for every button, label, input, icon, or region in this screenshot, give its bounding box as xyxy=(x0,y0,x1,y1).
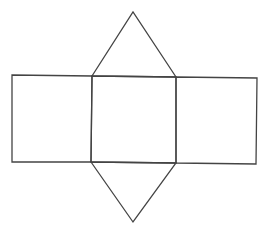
top-triangle-face xyxy=(92,12,176,77)
prism-net-diagram xyxy=(0,0,268,236)
right-rectangle-face xyxy=(176,77,257,164)
bottom-triangle-face xyxy=(91,162,176,222)
left-rectangle-face xyxy=(12,75,92,162)
center-rectangle-face xyxy=(91,76,176,163)
